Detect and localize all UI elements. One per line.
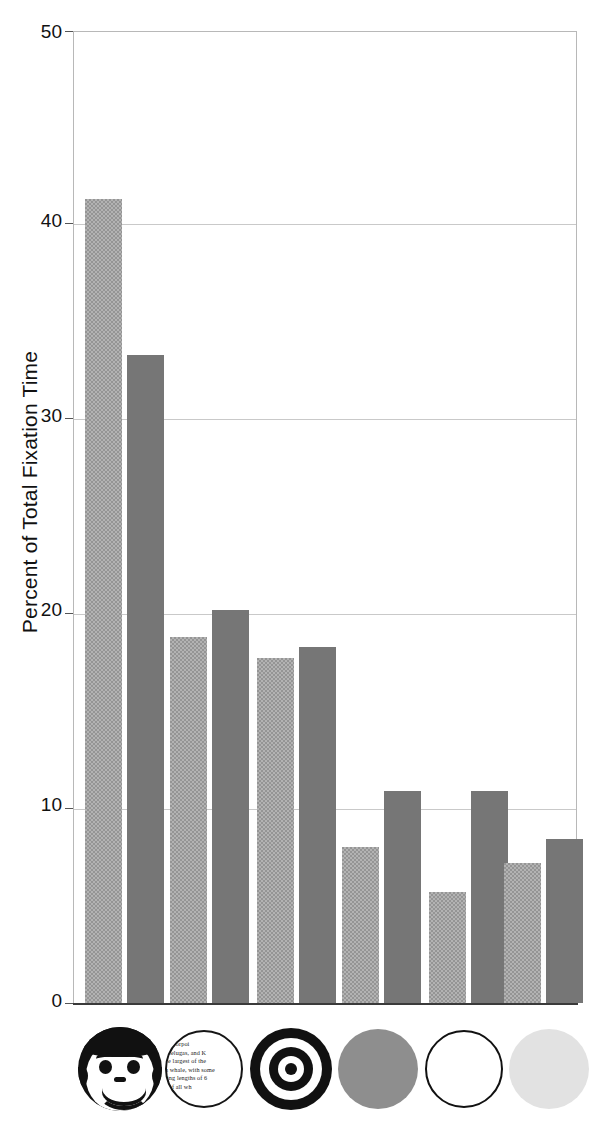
bar-bullseye-series-2 xyxy=(299,647,336,1003)
x-axis-icon-row: hall Porpoi s, Belugas, and K The larges… xyxy=(0,1022,583,1122)
y-tick-label-0: 0 xyxy=(14,991,62,1010)
text-circle-line-3: The largest of the xyxy=(165,1057,243,1066)
x-category-text-circle: hall Porpoi s, Belugas, and K The larges… xyxy=(158,1022,250,1116)
bar-face-series-1 xyxy=(85,199,122,1003)
text-circle-line-6: an of all wh xyxy=(165,1083,243,1092)
x-axis-line xyxy=(73,1003,578,1005)
x-category-bullseye xyxy=(245,1022,337,1116)
light-gray-disc-icon xyxy=(509,1029,589,1109)
y-tick-label-50: 50 xyxy=(14,22,62,41)
x-category-gray-disc xyxy=(332,1022,424,1116)
x-category-hollow-circle xyxy=(418,1022,510,1116)
text-circle-line-2: s, Belugas, and K xyxy=(165,1049,243,1058)
bar-hollow-circle-series-1 xyxy=(429,892,466,1003)
text-circle-line-4: rm whale, with some xyxy=(165,1066,243,1075)
text-circle-content: hall Porpoi s, Belugas, and K The larges… xyxy=(165,1040,243,1100)
bar-face-series-2 xyxy=(127,355,164,1003)
bar-gray-disc-series-2 xyxy=(384,791,421,1003)
bar-text-circle-series-2 xyxy=(212,610,249,1003)
bar-light-gray-disc-series-2 xyxy=(546,839,583,1003)
y-tick-label-20: 20 xyxy=(14,600,62,619)
y-tick-label-10: 10 xyxy=(14,795,62,814)
bar-hollow-circle-series-2 xyxy=(471,791,508,1003)
x-category-light-gray-disc xyxy=(503,1022,593,1116)
y-tick-label-30: 30 xyxy=(14,406,62,425)
bullseye-icon xyxy=(250,1028,332,1110)
face-icon xyxy=(78,1027,162,1111)
text-circle-icon: hall Porpoi s, Belugas, and K The larges… xyxy=(165,1030,243,1108)
text-circle-line-7: d the xyxy=(165,1092,243,1101)
y-tick-label-40: 40 xyxy=(14,211,62,230)
bar-text-circle-series-1 xyxy=(170,637,207,1003)
gray-disc-icon xyxy=(338,1029,418,1109)
bar-light-gray-disc-series-1 xyxy=(504,863,541,1003)
bar-gray-disc-series-1 xyxy=(342,847,379,1003)
x-category-face xyxy=(74,1022,166,1116)
text-circle-line-1: hall Porpoi xyxy=(165,1040,243,1049)
bar-bullseye-series-1 xyxy=(257,658,294,1003)
text-circle-line-5: ching lengths of 6 xyxy=(165,1074,243,1083)
hollow-circle-icon xyxy=(425,1030,503,1108)
plot-area xyxy=(73,31,577,1004)
gridline-40 xyxy=(74,224,576,225)
